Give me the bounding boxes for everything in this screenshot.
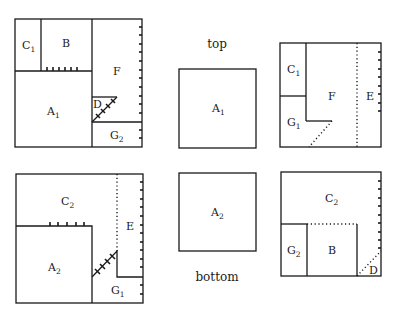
panel-border xyxy=(15,19,142,147)
panel-top-left: C1 B F A1 D G2 xyxy=(15,19,142,147)
region-label: G2 xyxy=(110,129,124,144)
region-label: E xyxy=(126,220,134,233)
region-label: F xyxy=(328,90,336,103)
region-label: D xyxy=(93,98,102,111)
region-label: C2 xyxy=(325,192,338,207)
panel-top-middle: top A1 xyxy=(179,37,256,148)
region-label: G2 xyxy=(287,244,301,259)
region-label: F xyxy=(113,65,121,78)
region-label: A1 xyxy=(46,105,60,120)
region-label: G1 xyxy=(111,284,125,299)
region-label: B xyxy=(62,37,70,50)
panel-bottom-left: C2 E A2 G1 xyxy=(16,174,143,303)
caption-bottom: bottom xyxy=(195,270,239,284)
panel-bottom-right: C2 G2 B D xyxy=(281,172,381,277)
polyhedron-net-diagram: C1 B F A1 D G2 top A1 C1 F E G1 xyxy=(0,0,398,318)
region-label: A2 xyxy=(210,206,224,221)
caption-top: top xyxy=(207,37,227,51)
panel-bottom-middle: A2 bottom xyxy=(179,173,256,284)
region-label: A2 xyxy=(47,261,61,276)
panel-border xyxy=(16,174,143,303)
region-label: D xyxy=(369,264,378,277)
panel-top-right: C1 F E G1 xyxy=(280,43,381,147)
region-label: C2 xyxy=(61,195,74,210)
region-label: E xyxy=(366,90,374,103)
region-label: B xyxy=(328,244,336,257)
region-label: A1 xyxy=(211,102,225,117)
region-label: C1 xyxy=(22,39,35,54)
region-label: C1 xyxy=(287,63,300,78)
region-label: G1 xyxy=(287,116,301,131)
